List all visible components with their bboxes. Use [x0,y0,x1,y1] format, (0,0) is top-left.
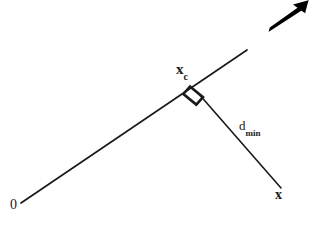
geometry-figure: xc dmin x 0 [0,0,309,226]
principal-ray-line [21,50,247,203]
label-minimum-distance-base: d [239,118,246,133]
label-closest-point-subscript: c [184,71,188,82]
label-closest-point: xc [176,62,188,80]
caption-remnant [0,217,309,226]
direction-arrow [269,0,309,32]
label-minimum-distance-subscript: min [246,128,261,138]
label-point-x: x [275,188,282,202]
label-closest-point-base: x [176,61,184,77]
perpendicular-distance-line [198,93,281,188]
right-angle-marker [183,87,203,105]
label-minimum-distance: dmin [239,119,261,136]
label-origin: 0 [10,198,17,212]
figure-canvas [0,0,309,226]
